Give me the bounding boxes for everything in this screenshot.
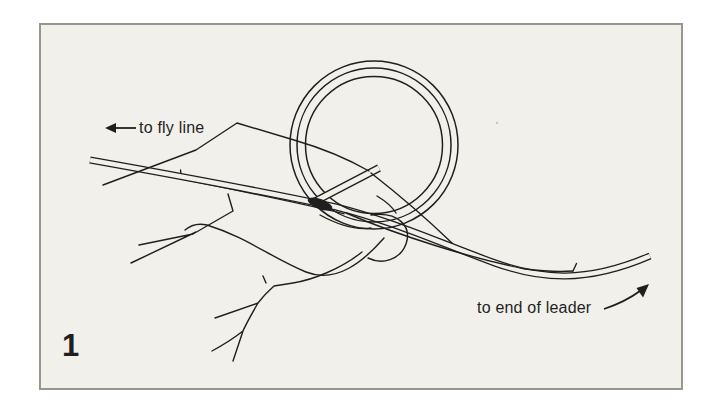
figure-page: to fly line to end of leader 1: [0, 0, 722, 410]
figure-number: 1: [62, 328, 79, 363]
figure-frame: [40, 24, 682, 389]
paper-speck: [496, 122, 499, 125]
to-fly-line-label: to fly line: [139, 119, 204, 136]
to-end-of-leader-label: to end of leader: [477, 299, 592, 316]
fishing-knot-illustration: to fly line to end of leader 1: [0, 0, 722, 410]
